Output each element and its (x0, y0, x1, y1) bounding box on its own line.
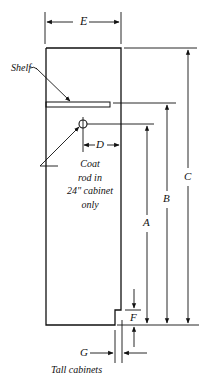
dimension-g (90, 320, 147, 363)
coat-rod-line-1: Coat (62, 157, 118, 171)
label-a: A (143, 216, 150, 228)
caption: Tall cabinets (51, 364, 102, 375)
shelf-annotation: Shelf (11, 62, 31, 73)
label-f: F (130, 311, 137, 323)
label-c: C (184, 170, 191, 182)
label-d: D (96, 138, 104, 150)
coat-rod-line-2: rod in (62, 171, 118, 185)
label-b: B (163, 192, 170, 204)
coat-rod-annotation: Coat rod in 24" cabinet only (62, 157, 118, 211)
shelf (46, 102, 110, 107)
coat-rod-line-4: only (62, 198, 118, 212)
coat-rod-line-3: 24" cabinet (62, 184, 118, 198)
label-g: G (80, 346, 88, 358)
shelf-pointer (36, 68, 70, 101)
label-e: E (78, 14, 89, 29)
